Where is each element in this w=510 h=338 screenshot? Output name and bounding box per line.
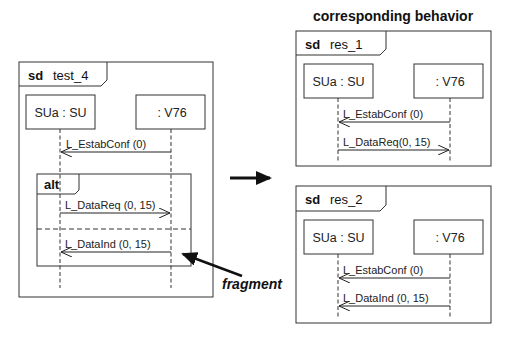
- message-label-datareq: L_DataReq (0, 15): [65, 199, 156, 211]
- fragment-annotation: fragment: [222, 276, 283, 292]
- res-2-diagram: sd res_2 SUa : SU : V76 L_EstabConf (0) …: [296, 186, 491, 323]
- test-4-diagram: sd test_4 SUa : SU : V76 L_EstabConf (0)…: [19, 62, 213, 297]
- results-title: corresponding behavior: [313, 8, 474, 24]
- alt-operator: alt: [44, 177, 60, 192]
- lifeline-label-sua: SUa : SU: [312, 231, 364, 245]
- test-4-name: test_4: [53, 68, 88, 83]
- diagram-canvas: sd test_4 SUa : SU : V76 L_EstabConf (0)…: [0, 0, 510, 338]
- message-label-estabconf: L_EstabConf (0): [66, 138, 146, 150]
- res-1-keyword: sd: [305, 37, 320, 52]
- test-4-keyword: sd: [28, 68, 43, 83]
- lifeline-label-v76: : V76: [435, 231, 464, 245]
- message-label-estabconf: L_EstabConf (0): [343, 264, 423, 276]
- res-2-name: res_2: [330, 192, 363, 207]
- lifeline-label-v76: : V76: [435, 75, 464, 89]
- lifeline-label-sua: SUa : SU: [34, 106, 86, 120]
- res-1-name: res_1: [330, 37, 363, 52]
- lifeline-label-v76: : V76: [157, 106, 186, 120]
- message-label-dataind: L_DataInd (0, 15): [343, 292, 429, 304]
- message-label-dataind: L_DataInd (0, 15): [65, 238, 151, 250]
- res-2-keyword: sd: [305, 192, 320, 207]
- message-label-estabconf: L_EstabConf (0): [343, 108, 423, 120]
- lifeline-label-sua: SUa : SU: [312, 75, 364, 89]
- message-label-datareq: L_DataReq(0, 15): [343, 136, 430, 148]
- res-1-diagram: sd res_1 SUa : SU : V76 L_EstabConf (0) …: [296, 31, 491, 166]
